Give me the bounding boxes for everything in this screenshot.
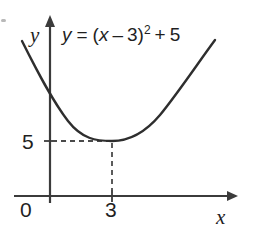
origin-label: 0 [20,198,32,221]
equation-label: y=(x–3)2+5 [60,23,180,45]
y-axis-label: y [28,23,40,47]
equation-equals: = [77,24,88,45]
equation-k-value: 5 [170,24,181,45]
svg-text:y=(x–3)2+5: y=(x–3)2+5 [60,23,180,45]
x-tick-label-3: 3 [105,198,117,221]
x-axis-label: x [215,205,226,229]
equation-h-value: 3 [127,24,138,45]
parabola-figure: y x 0 3 5 y=(x–3)2+5 [0,0,256,234]
scan-edge-artifact [1,19,6,22]
equation-variable: x [98,24,110,45]
equation-minus: – [112,24,123,45]
equation-lhs: y [60,24,73,45]
equation-plus: + [155,24,166,45]
y-tick-label-5: 5 [22,130,34,153]
equation-exponent: 2 [144,23,151,37]
